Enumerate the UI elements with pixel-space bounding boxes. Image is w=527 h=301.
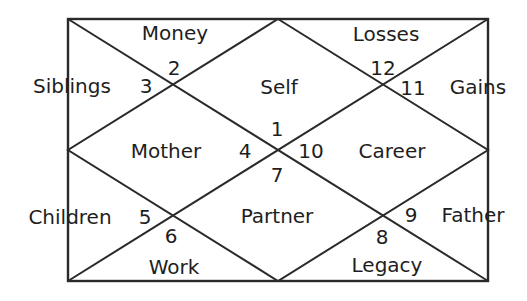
house-4-label: Mother xyxy=(131,139,202,163)
house-6-number: 6 xyxy=(165,224,178,248)
house-10-number: 10 xyxy=(298,139,323,163)
house-11-number: 11 xyxy=(400,76,425,100)
house-9-label: Father xyxy=(442,203,506,227)
house-4-number: 4 xyxy=(239,139,252,163)
house-12-label: Losses xyxy=(353,22,420,46)
house-8-label: Legacy xyxy=(352,253,423,277)
house-7-label: Partner xyxy=(241,204,314,228)
house-3-label: Siblings xyxy=(33,74,111,98)
house-12-number: 12 xyxy=(370,56,395,80)
house-9-number: 9 xyxy=(405,203,418,227)
house-1-number: 1 xyxy=(271,117,284,141)
house-11-label: Gains xyxy=(450,75,506,99)
house-1-label: Self xyxy=(260,75,299,99)
house-8-number: 8 xyxy=(376,225,389,249)
house-5-number: 5 xyxy=(139,205,152,229)
horoscope-chart: Self 1 Money 2 Siblings 3 Mother 4 Child… xyxy=(0,0,527,301)
house-3-number: 3 xyxy=(140,74,153,98)
house-10-label: Career xyxy=(359,139,427,163)
house-2-label: Money xyxy=(142,21,208,45)
house-5-label: Children xyxy=(28,205,111,229)
house-2-number: 2 xyxy=(168,56,181,80)
house-6-label: Work xyxy=(149,255,200,279)
house-7-number: 7 xyxy=(271,163,284,187)
